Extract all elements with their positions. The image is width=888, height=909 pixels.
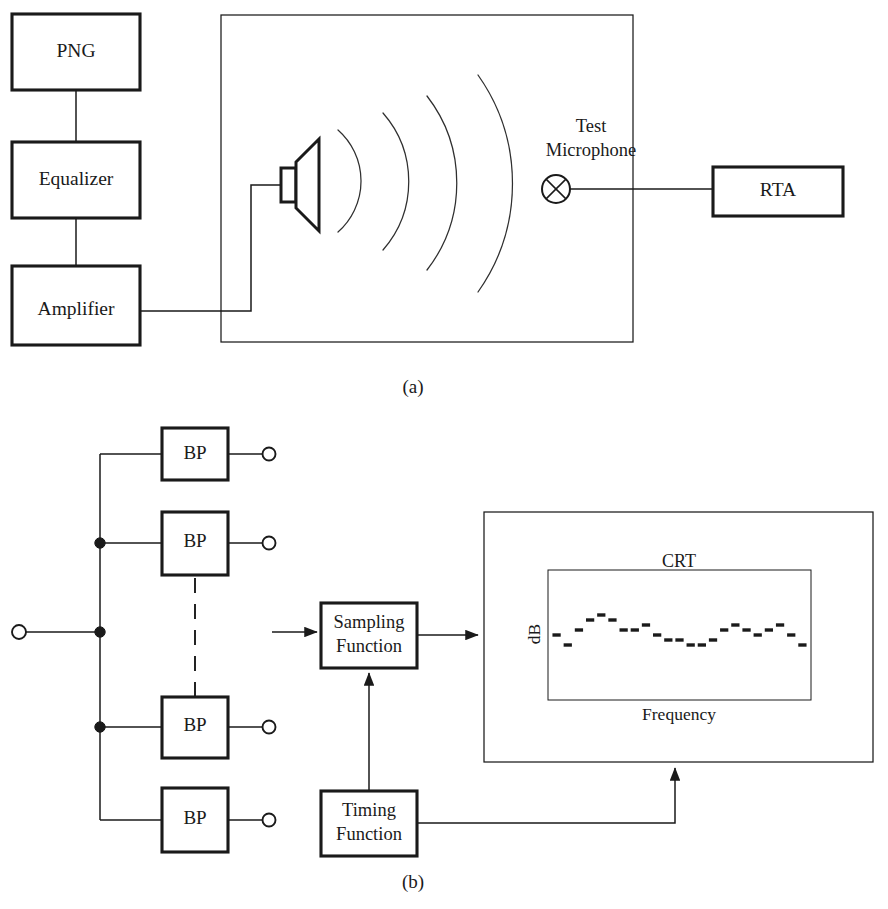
microphone-label-line1: Test [576,116,607,136]
rta-block[interactable]: RTA [713,167,843,216]
loudspeaker-icon [281,139,319,231]
wavefront-arc-4 [478,75,512,292]
timing-label-line1: Timing [342,800,396,820]
sampling-function-block[interactable]: Sampling Function [321,603,417,668]
bp3-label: BP [183,714,206,735]
sampling-label-line1: Sampling [334,612,405,632]
png-label: PNG [56,40,95,61]
bp3-output-terminal[interactable] [263,721,276,734]
bp1-label: BP [183,442,206,463]
speaker-driver-body [281,168,296,202]
panel-a: PNG Equalizer Amplifier [12,14,843,398]
equalizer-block[interactable]: Equalizer [12,142,140,218]
sound-wavefronts [338,75,512,292]
bp-filter-1[interactable]: BP [162,428,228,480]
rta-label: RTA [760,179,796,200]
bp1-output-terminal[interactable] [263,448,276,461]
junction-dot-bp3 [95,722,105,732]
speaker-horn [296,139,319,231]
microphone-label-line2: Microphone [546,140,636,160]
bp-filter-4[interactable]: BP [162,788,228,852]
crt-screen-fill [548,570,811,700]
bp4-label: BP [183,807,206,828]
test-microphone[interactable]: Test Microphone [542,116,636,203]
junction-dot-bp2 [95,538,105,548]
bp-filter-3[interactable]: BP [162,697,228,758]
wavefront-arc-3 [427,96,457,270]
bp-filter-2[interactable]: BP [162,512,228,575]
equalizer-label: Equalizer [39,168,114,189]
wavefront-arc-2 [383,113,409,250]
input-terminal-icon[interactable] [12,625,26,639]
amplifier-block[interactable]: Amplifier [12,266,140,345]
wire-timing-to-display [417,768,675,823]
bp2-label: BP [183,530,206,551]
block-diagram-figure: PNG Equalizer Amplifier [0,0,888,909]
panel-b-caption: (b) [402,871,424,893]
crt-x-axis-label: Frequency [642,704,716,724]
crt-y-axis-label: dB [524,624,544,644]
panel-a-caption: (a) [402,376,423,398]
timing-function-block[interactable]: Timing Function [321,791,417,856]
bp4-output-terminal[interactable] [263,814,276,827]
bp2-output-terminal[interactable] [263,537,276,550]
crt-label: CRT [662,551,696,571]
amplifier-label: Amplifier [38,298,115,319]
timing-label-line2: Function [336,824,402,844]
panel-b: BP BP BP BP [12,428,873,893]
junction-dot-input [95,627,105,637]
sampling-label-line2: Function [336,636,402,656]
wire-amplifier-to-speaker [140,185,281,311]
png-block[interactable]: PNG [12,14,140,90]
figure-root: PNG Equalizer Amplifier [0,0,888,909]
wavefront-arc-1 [338,130,361,232]
